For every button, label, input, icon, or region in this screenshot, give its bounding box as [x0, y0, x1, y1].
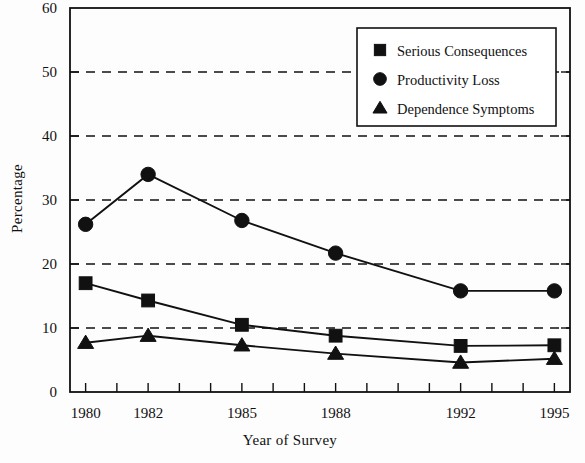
y-tick-label: 10 — [42, 320, 57, 336]
x-axis-title: Year of Survey — [210, 432, 370, 449]
x-tick-label: 1980 — [71, 405, 101, 421]
legend-entry: Dependence Symptoms — [373, 101, 535, 117]
y-tick-label: 50 — [42, 64, 57, 80]
marker-circle — [141, 167, 155, 181]
marker-circle — [235, 213, 249, 227]
y-tick-label: 60 — [42, 0, 57, 16]
x-tick-label: 1988 — [321, 405, 351, 421]
y-tick-label: 40 — [42, 128, 57, 144]
y-axis-tick-labels: 0102030405060 — [42, 0, 57, 400]
marker-square — [235, 318, 248, 331]
marker-circle — [78, 217, 92, 231]
legend-label: Serious Consequences — [397, 43, 527, 59]
marker-square — [548, 339, 561, 352]
x-tick-label: 1982 — [133, 405, 163, 421]
y-tick-label: 20 — [42, 256, 57, 272]
series-line — [86, 336, 555, 363]
marker-square — [374, 44, 385, 55]
marker-circle — [547, 284, 561, 298]
marker-square — [329, 329, 342, 342]
legend-label: Productivity Loss — [397, 72, 500, 88]
legend-entry: Serious Consequences — [374, 43, 527, 59]
data-series-layer — [78, 167, 563, 368]
marker-circle — [374, 73, 387, 86]
y-axis-title: Percentage — [9, 149, 26, 249]
x-axis-tick-labels: 198019821985198819921995 — [71, 405, 570, 421]
y-tick-label: 0 — [50, 384, 58, 400]
marker-triangle — [546, 351, 562, 364]
marker-circle — [453, 284, 467, 298]
x-tick-label: 1992 — [446, 405, 476, 421]
series-line — [86, 174, 555, 290]
legend-label: Dependence Symptoms — [397, 101, 535, 117]
marker-square — [142, 294, 155, 307]
y-tick-label: 30 — [42, 192, 57, 208]
line-chart: 0102030405060 198019821985198819921995 S… — [0, 0, 585, 463]
chart-legend: Serious ConsequencesProductivity LossDep… — [357, 28, 556, 126]
x-tick-label: 1995 — [539, 405, 569, 421]
chart-figure: 0102030405060 198019821985198819921995 S… — [0, 0, 585, 463]
marker-triangle — [140, 328, 156, 341]
marker-square — [79, 277, 92, 290]
x-tick-label: 1985 — [227, 405, 257, 421]
marker-square — [454, 340, 467, 353]
marker-circle — [328, 246, 342, 260]
series-circle — [78, 167, 561, 298]
x-axis-ticks — [86, 383, 555, 392]
